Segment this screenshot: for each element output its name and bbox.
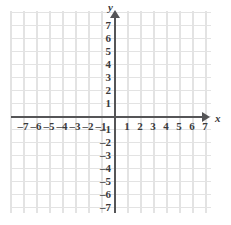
grid-line-horizontal xyxy=(11,25,211,26)
grid-line-vertical xyxy=(167,11,168,213)
grid-line-vertical xyxy=(127,11,128,213)
grid-line-vertical xyxy=(76,11,77,213)
grid-line-horizontal xyxy=(11,194,211,195)
grid-line-vertical xyxy=(128,11,129,213)
y-tick-label: –4 xyxy=(95,163,111,174)
y-tick-label: –5 xyxy=(95,176,111,187)
x-tick-label: –6 xyxy=(29,121,43,132)
x-tick-label: 5 xyxy=(172,121,186,132)
x-tick-label: –2 xyxy=(81,121,95,132)
grid-line-vertical xyxy=(49,11,50,213)
x-tick-label: 6 xyxy=(185,121,199,132)
x-axis-line xyxy=(11,116,203,118)
grid-line-vertical xyxy=(141,11,142,213)
y-axis-line xyxy=(114,17,116,213)
grid-line-vertical xyxy=(63,11,64,213)
grid-line-horizontal xyxy=(11,51,211,52)
grid-line-vertical xyxy=(153,11,154,213)
grid-line-vertical xyxy=(89,11,90,213)
x-tick-label: –4 xyxy=(55,121,69,132)
x-tick-label: –7 xyxy=(16,121,30,132)
grid-line-horizontal xyxy=(11,64,211,65)
y-tick-label: 1 xyxy=(95,98,111,109)
grid-lines xyxy=(11,11,211,213)
grid-line-vertical xyxy=(180,11,181,213)
coordinate-plane-figure: x y –7–6–5–4–3–2–11234567 7654321–1–2–3–… xyxy=(0,0,231,225)
grid-line-horizontal xyxy=(11,168,211,169)
y-tick-label: –7 xyxy=(95,202,111,213)
grid-line-vertical xyxy=(23,11,24,213)
grid-line-horizontal xyxy=(11,103,211,104)
grid-line-vertical xyxy=(88,11,89,213)
x-tick-label: 1 xyxy=(120,121,134,132)
grid-line-horizontal xyxy=(11,142,211,143)
y-tick-label: 4 xyxy=(95,59,111,70)
grid-line-horizontal xyxy=(11,38,211,39)
y-tick-label: 3 xyxy=(95,72,111,83)
grid-line-vertical xyxy=(24,11,25,213)
grid-line-vertical xyxy=(192,11,193,213)
x-tick-label: –5 xyxy=(42,121,56,132)
y-tick-label: 7 xyxy=(95,20,111,31)
x-tick-label: 3 xyxy=(146,121,160,132)
grid-line-vertical xyxy=(154,11,155,213)
grid-line-vertical xyxy=(50,11,51,213)
x-tick-label: 4 xyxy=(159,121,173,132)
grid-line-vertical xyxy=(11,11,12,213)
y-tick-label: 2 xyxy=(95,85,111,96)
grid-line-horizontal xyxy=(11,77,211,78)
x-tick-label: –3 xyxy=(68,121,82,132)
y-tick-label: 5 xyxy=(95,46,111,57)
y-tick-label: 6 xyxy=(95,33,111,44)
grid-line-vertical xyxy=(62,11,63,213)
y-tick-label: –2 xyxy=(95,137,111,148)
x-tick-label: 7 xyxy=(198,121,212,132)
grid-line-vertical xyxy=(179,11,180,213)
grid-line-horizontal xyxy=(11,181,211,182)
grid-line-horizontal xyxy=(11,155,211,156)
grid-line-vertical xyxy=(75,11,76,213)
grid-line-vertical xyxy=(193,11,194,213)
grid-line-vertical xyxy=(36,11,37,213)
grid-line-vertical xyxy=(140,11,141,213)
x-axis-label: x xyxy=(215,113,221,124)
grid-line-vertical xyxy=(166,11,167,213)
grid-line-horizontal xyxy=(11,207,211,208)
grid-line-vertical xyxy=(10,11,11,213)
y-tick-label: –3 xyxy=(95,150,111,161)
x-tick-label: 2 xyxy=(133,121,147,132)
grid-line-horizontal xyxy=(11,90,211,91)
y-axis-label: y xyxy=(108,2,113,13)
y-tick-label: –6 xyxy=(95,189,111,200)
y-tick-label: –1 xyxy=(95,124,111,135)
grid-line-vertical xyxy=(37,11,38,213)
